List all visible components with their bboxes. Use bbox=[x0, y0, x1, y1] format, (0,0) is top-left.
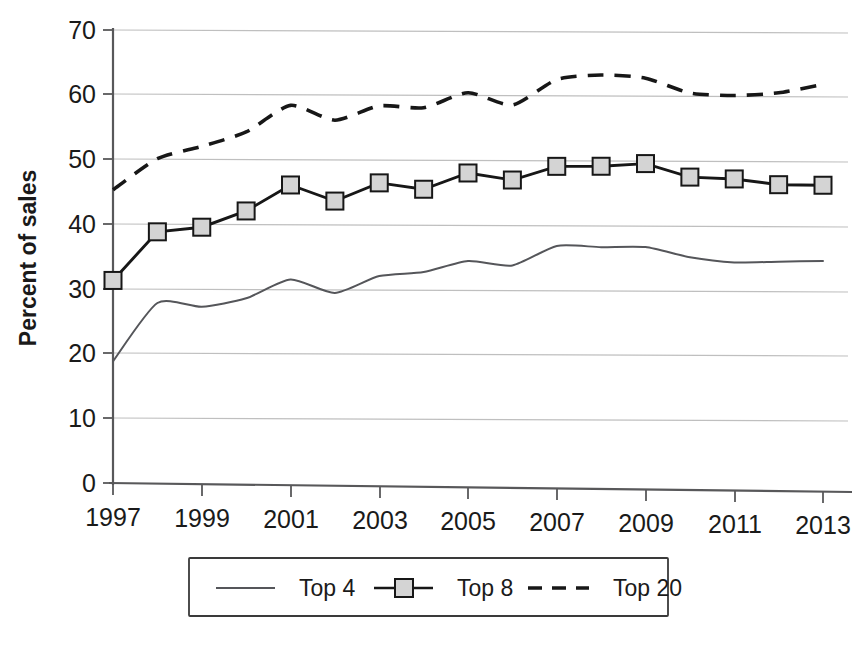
legend-label-top-8: Top 8 bbox=[457, 575, 513, 601]
data-point-marker bbox=[770, 176, 787, 193]
gridlines bbox=[113, 30, 848, 421]
data-point-marker bbox=[548, 158, 565, 175]
data-point-marker bbox=[371, 174, 388, 191]
x-tick-label-2013: 2013 bbox=[795, 511, 851, 539]
x-axis-line bbox=[109, 483, 852, 492]
y-axis-title: Percent of sales bbox=[15, 170, 41, 346]
line-chart: 70 60 50 40 30 20 10 0 Percent of sales … bbox=[0, 0, 867, 646]
x-tick-label-1997: 1997 bbox=[85, 503, 141, 531]
gridline-50 bbox=[113, 159, 848, 162]
series-line-top-4 bbox=[113, 245, 823, 361]
y-axis-tick-labels: 70 60 50 40 30 20 10 0 bbox=[68, 16, 96, 497]
x-axis-tick-labels: 1997 1999 2001 2003 2005 2007 2009 2011 … bbox=[85, 503, 851, 539]
gridline-60 bbox=[113, 94, 848, 97]
data-point-marker bbox=[326, 193, 343, 210]
data-point-marker bbox=[460, 164, 477, 181]
y-tick-label-10: 10 bbox=[68, 404, 96, 432]
chart-figure: 70 60 50 40 30 20 10 0 Percent of sales … bbox=[0, 0, 867, 646]
data-point-marker bbox=[504, 172, 521, 189]
chart-legend: Top 4 Top 8 Top 20 bbox=[189, 558, 682, 616]
axes bbox=[109, 28, 852, 492]
x-tick-label-2005: 2005 bbox=[440, 507, 496, 535]
data-point-marker bbox=[726, 170, 743, 187]
y-tick-label-40: 40 bbox=[68, 210, 96, 238]
gridline-70 bbox=[113, 30, 848, 33]
y-tick-label-20: 20 bbox=[68, 339, 96, 367]
square-marker-icon bbox=[395, 579, 413, 597]
y-tick-label-50: 50 bbox=[68, 145, 96, 173]
x-tick-label-1999: 1999 bbox=[174, 504, 230, 532]
y-tick-label-0: 0 bbox=[82, 469, 96, 497]
y-axis-ticks bbox=[103, 30, 113, 483]
data-point-marker bbox=[238, 202, 255, 219]
x-tick-label-2007: 2007 bbox=[529, 508, 585, 536]
x-tick-label-2009: 2009 bbox=[618, 509, 674, 537]
gridline-30 bbox=[113, 289, 848, 292]
data-point-marker bbox=[193, 219, 210, 236]
y-tick-label-70: 70 bbox=[68, 16, 96, 44]
data-point-marker bbox=[637, 155, 654, 172]
data-point-marker bbox=[415, 181, 432, 198]
x-tick-label-2001: 2001 bbox=[263, 505, 319, 533]
y-tick-label-30: 30 bbox=[68, 275, 96, 303]
data-point-marker bbox=[815, 177, 832, 194]
legend-label-top-4: Top 4 bbox=[299, 575, 355, 601]
x-tick-label-2011: 2011 bbox=[708, 510, 762, 538]
data-point-marker bbox=[681, 169, 698, 186]
y-tick-label-60: 60 bbox=[68, 80, 96, 108]
data-point-marker bbox=[105, 272, 122, 289]
x-tick-label-2003: 2003 bbox=[352, 506, 408, 534]
gridline-20 bbox=[113, 353, 848, 356]
legend-label-top-20: Top 20 bbox=[613, 575, 682, 601]
data-point-marker bbox=[149, 223, 166, 240]
data-point-marker bbox=[282, 176, 299, 193]
gridline-40 bbox=[113, 224, 848, 227]
data-point-marker bbox=[593, 158, 610, 175]
gridline-10 bbox=[113, 418, 848, 421]
